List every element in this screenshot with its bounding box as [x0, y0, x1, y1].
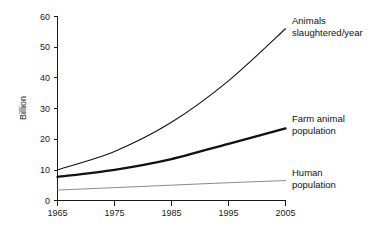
y-tick-label-10: 10 [40, 165, 50, 175]
x-tick-label-2005: 2005 [275, 208, 295, 218]
x-tick-label-1965: 1965 [47, 208, 67, 218]
y-tick-label-50: 50 [40, 42, 50, 52]
y-tick-label-20: 20 [40, 134, 50, 144]
label-human-population-line1: Human [292, 167, 323, 178]
y-tick-label-40: 40 [40, 73, 50, 83]
line-chart: 0 10 20 30 40 50 60 1965 1975 1985 1995 … [0, 0, 385, 234]
x-tick-label-1975: 1975 [104, 208, 124, 218]
x-tick-marks [58, 201, 286, 206]
y-axis-title: Billion [18, 96, 28, 120]
series-farm-animal-population-line [58, 128, 286, 176]
x-tick-labels: 1965 1975 1985 1995 2005 [47, 208, 295, 218]
y-tick-label-30: 30 [40, 104, 50, 114]
series-human-population-line [58, 181, 286, 191]
label-animals-slaughtered-line2: slaughtered/year [292, 27, 363, 38]
chart-container: 0 10 20 30 40 50 60 1965 1975 1985 1995 … [0, 0, 385, 234]
label-human-population-line2: population [292, 179, 336, 190]
y-tick-label-0: 0 [45, 196, 50, 206]
label-farm-animal-line2: population [292, 125, 336, 136]
series-animals-slaughtered-line [58, 29, 286, 170]
y-tick-labels: 0 10 20 30 40 50 60 [40, 12, 50, 206]
series-group [58, 29, 286, 190]
y-tick-label-60: 60 [40, 12, 50, 22]
x-tick-label-1995: 1995 [218, 208, 238, 218]
x-tick-label-1985: 1985 [161, 208, 181, 218]
y-tick-marks [54, 17, 58, 201]
series-labels: Animals slaughtered/year Farm animal pop… [292, 15, 363, 190]
label-farm-animal-line1: Farm animal [292, 113, 345, 124]
label-animals-slaughtered-line1: Animals [292, 15, 326, 26]
